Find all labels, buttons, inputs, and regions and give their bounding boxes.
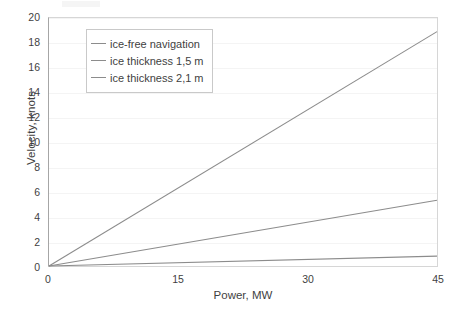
series-line (49, 200, 437, 266)
y-tick-label: 12 (4, 112, 40, 123)
legend-line-swatch-icon (91, 77, 106, 78)
legend-label: ice thickness 2,1 m (110, 72, 204, 84)
series-line (49, 256, 437, 266)
y-tick-label: 20 (4, 12, 40, 23)
scan-artifact (62, 1, 100, 7)
x-tick-label: 30 (288, 274, 328, 285)
x-tick-label: 15 (158, 274, 198, 285)
x-tick-label: 0 (28, 274, 68, 285)
x-axis-title: Power, MW (48, 289, 438, 301)
y-tick-label: 6 (4, 187, 40, 198)
legend-line-swatch-icon (91, 43, 106, 44)
y-tick-label: 14 (4, 87, 40, 98)
y-tick-label: 0 (4, 262, 40, 273)
y-tick-label: 8 (4, 162, 40, 173)
legend-item: ice thickness 2,1 m (91, 69, 204, 86)
legend-line-swatch-icon (91, 60, 106, 61)
legend-item: ice-free navigation (91, 35, 204, 52)
y-tick-label: 16 (4, 62, 40, 73)
y-tick-label: 10 (4, 137, 40, 148)
legend-label: ice thickness 1,5 m (110, 55, 204, 67)
x-tick-label: 45 (418, 274, 453, 285)
y-tick-label: 18 (4, 37, 40, 48)
velocity-vs-power-chart: Velocity, knots 02468101214161820 015304… (0, 0, 453, 309)
chart-legend: ice-free navigationice thickness 1,5 mic… (86, 29, 213, 93)
legend-item: ice thickness 1,5 m (91, 52, 204, 69)
y-tick-label: 2 (4, 237, 40, 248)
legend-label: ice-free navigation (110, 38, 200, 50)
y-tick-label: 4 (4, 212, 40, 223)
